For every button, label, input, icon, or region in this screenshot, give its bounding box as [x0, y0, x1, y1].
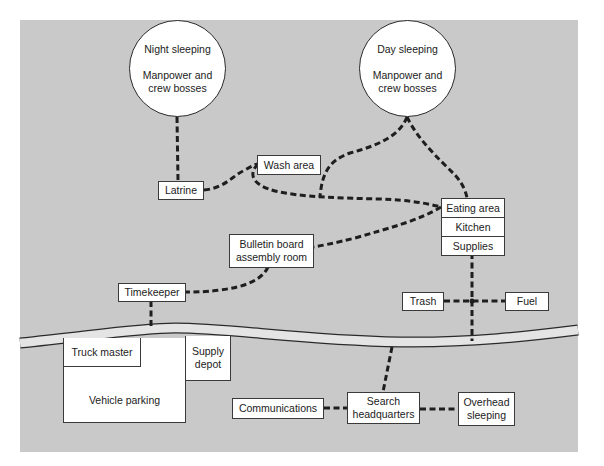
day-sleeping-subtitle: Manpower and crew bosses [373, 69, 443, 95]
overhead-sleeping-node: Overhead sleeping [458, 392, 515, 426]
communications-node: Communications [232, 398, 324, 419]
night-sleeping-area: Night sleeping Manpower and crew bosses [129, 20, 226, 117]
wash-area-node: Wash area [257, 155, 321, 175]
path-day-eating [407, 117, 467, 198]
search-headquarters-node: Search headquarters [347, 392, 420, 424]
supply-depot-label: Supply depot [190, 345, 226, 371]
path-night-latrine [177, 117, 178, 181]
bulletin-board-node: Bulletin board assembly room [229, 234, 314, 268]
night-sleeping-subtitle: Manpower and crew bosses [143, 69, 213, 95]
fuel-node: Fuel [505, 292, 549, 311]
eating-area-node: Eating area [441, 198, 505, 218]
path-bulletin-timekeeper [186, 267, 268, 292]
path-road-searchhq [383, 347, 392, 392]
path-eating-bulletin [313, 207, 441, 247]
supplies-node: Supplies [441, 237, 505, 256]
truck-master-node: Truck master [63, 338, 141, 367]
path-latrine-wash [204, 164, 258, 190]
trash-node: Trash [402, 292, 444, 311]
junction-dot [470, 299, 475, 304]
eating-kitchen-supplies-stack: Eating area Kitchen Supplies [441, 198, 505, 256]
kitchen-node: Kitchen [441, 218, 505, 237]
night-sleeping-title: Night sleeping [144, 43, 211, 56]
latrine-node: Latrine [158, 181, 204, 200]
timekeeper-node: Timekeeper [118, 283, 186, 302]
supply-depot-node: Supply depot [185, 336, 231, 381]
day-sleeping-title: Day sleeping [377, 43, 438, 56]
day-sleeping-area: Day sleeping Manpower and crew bosses [359, 20, 456, 117]
path-day-left [320, 117, 407, 197]
vehicle-parking-label: Vehicle parking [64, 394, 185, 406]
